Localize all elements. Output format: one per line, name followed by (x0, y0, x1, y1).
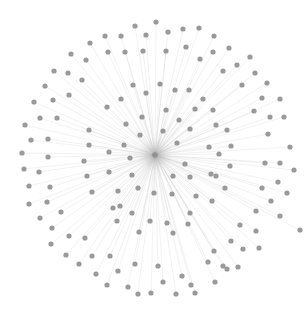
graph-node[interactable] (264, 80, 269, 85)
graph-node[interactable] (170, 230, 175, 235)
graph-node[interactable] (83, 57, 88, 62)
graph-node[interactable] (212, 279, 217, 284)
graph-node[interactable] (173, 291, 178, 296)
graph-node[interactable] (220, 68, 225, 73)
graph-node[interactable] (222, 185, 227, 190)
graph-node[interactable] (253, 208, 258, 213)
graph-node[interactable] (213, 122, 218, 127)
graph-node[interactable] (268, 198, 273, 203)
graph-node[interactable] (193, 193, 198, 198)
graph-node[interactable] (127, 155, 132, 160)
graph-node[interactable] (160, 128, 165, 133)
graph-node[interactable] (105, 49, 110, 54)
graph-node[interactable] (123, 121, 128, 126)
graph-node[interactable] (22, 122, 27, 127)
graph-node[interactable] (143, 90, 148, 95)
graph-node[interactable] (277, 160, 282, 165)
graph-node[interactable] (122, 49, 127, 54)
graph-node[interactable] (179, 273, 184, 278)
graph-node[interactable] (21, 166, 26, 171)
graph-node[interactable] (224, 127, 229, 132)
graph-node[interactable] (118, 33, 123, 38)
graph-node[interactable] (220, 263, 225, 268)
graph-node[interactable] (47, 184, 52, 189)
graph-node[interactable] (26, 183, 31, 188)
graph-node[interactable] (121, 142, 126, 147)
graph-node[interactable] (132, 23, 137, 28)
graph-node[interactable] (256, 245, 261, 250)
graph-node[interactable] (185, 221, 190, 226)
graph-node[interactable] (183, 44, 188, 49)
graph-node[interactable] (196, 25, 201, 30)
graph-node[interactable] (110, 205, 115, 210)
graph-node[interactable] (118, 96, 123, 101)
graph-node[interactable] (84, 173, 89, 178)
graph-node[interactable] (240, 246, 245, 251)
graph-node[interactable] (129, 210, 134, 215)
graph-node[interactable] (174, 140, 179, 145)
graph-node[interactable] (66, 92, 71, 97)
graph-node[interactable] (235, 264, 240, 269)
graph-node[interactable] (172, 87, 177, 92)
graph-node[interactable] (234, 62, 239, 67)
graph-node[interactable] (226, 45, 231, 50)
graph-node[interactable] (115, 188, 120, 193)
graph-node[interactable] (129, 172, 134, 177)
graph-node[interactable] (45, 154, 50, 159)
graph-node[interactable] (208, 171, 213, 176)
graph-node[interactable] (42, 83, 47, 88)
graph-node[interactable] (259, 95, 264, 100)
graph-node[interactable] (19, 150, 24, 155)
graph-node[interactable] (187, 210, 192, 215)
graph-node[interactable] (163, 48, 168, 53)
graph-node[interactable] (209, 198, 214, 203)
graph-node[interactable] (125, 284, 130, 289)
graph-node[interactable] (253, 228, 258, 233)
graph-node[interactable] (37, 115, 42, 120)
graph-node[interactable] (135, 185, 140, 190)
graph-node[interactable] (117, 203, 122, 208)
graph-node[interactable] (210, 107, 215, 112)
graph-node[interactable] (170, 173, 175, 178)
graph-node[interactable] (200, 96, 205, 101)
graph-node[interactable] (140, 48, 145, 53)
graph-node[interactable] (31, 99, 36, 104)
graph-node[interactable] (187, 126, 192, 131)
graph-node[interactable] (104, 104, 109, 109)
graph-node[interactable] (213, 173, 218, 178)
graph-node[interactable] (50, 97, 55, 102)
graph-node[interactable] (106, 169, 111, 174)
graph-node[interactable] (277, 96, 282, 101)
graph-node[interactable] (147, 218, 152, 223)
graph-node[interactable] (115, 268, 120, 273)
graph-node[interactable] (180, 26, 185, 31)
graph-node[interactable] (259, 185, 264, 190)
graph-node[interactable] (169, 191, 174, 196)
graph-node[interactable] (36, 169, 41, 174)
graph-node[interactable] (136, 229, 141, 234)
graph-node[interactable] (58, 209, 63, 214)
graph-node[interactable] (182, 161, 187, 166)
graph-node[interactable] (68, 51, 73, 56)
graph-node[interactable] (114, 218, 119, 223)
graph-node[interactable] (45, 136, 50, 141)
graph-node[interactable] (211, 248, 216, 253)
graph-node[interactable] (228, 238, 233, 243)
graph-node[interactable] (89, 253, 94, 258)
graph-node[interactable] (228, 143, 233, 148)
graph-node[interactable] (297, 227, 302, 232)
graph-node[interactable] (143, 32, 148, 37)
graph-node[interactable] (54, 115, 59, 120)
graph-node[interactable] (48, 241, 53, 246)
graph-node[interactable] (188, 282, 193, 287)
graph-node[interactable] (76, 261, 81, 266)
graph-node[interactable] (262, 160, 267, 165)
graph-node[interactable] (28, 137, 33, 142)
hub-node[interactable] (152, 152, 158, 158)
graph-node[interactable] (192, 290, 197, 295)
graph-node[interactable] (65, 70, 70, 75)
graph-node[interactable] (211, 33, 216, 38)
graph-node[interactable] (148, 290, 153, 295)
graph-node[interactable] (165, 29, 170, 34)
graph-node[interactable] (107, 253, 112, 258)
